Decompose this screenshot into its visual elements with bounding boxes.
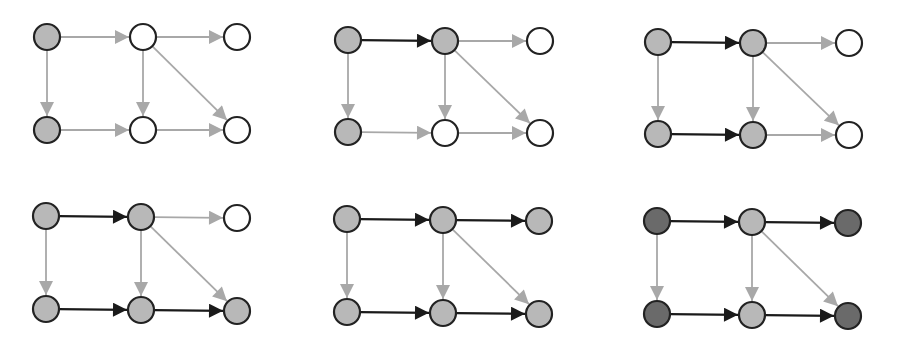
node-c-dark <box>835 210 861 236</box>
node-d-light <box>335 119 361 145</box>
edge-de-dark <box>670 314 738 315</box>
node-f-dark <box>835 303 861 329</box>
edge-de-dark <box>360 312 429 313</box>
node-d-light <box>645 121 671 147</box>
node-b-light <box>739 209 765 235</box>
node-f-white <box>527 120 553 146</box>
graph-panel-1 <box>34 24 250 143</box>
node-f-light <box>224 298 250 324</box>
node-b-white <box>130 24 156 50</box>
node-e-light <box>430 300 456 326</box>
node-e-light <box>740 122 766 148</box>
graph-panel-2 <box>335 27 553 146</box>
node-a-light <box>33 203 59 229</box>
node-a-light <box>334 206 360 232</box>
node-f-white <box>224 117 250 143</box>
node-c-white <box>836 30 862 56</box>
node-d-light <box>334 299 360 325</box>
edge-de-dark <box>671 134 739 135</box>
node-c-light <box>526 208 552 234</box>
node-a-light <box>335 27 361 53</box>
node-d-light <box>33 296 59 322</box>
edge-ab-dark <box>360 219 429 220</box>
edge-de-light <box>361 132 431 133</box>
node-a-dark <box>644 208 670 234</box>
node-e-white <box>130 117 156 143</box>
node-b-light <box>740 30 766 56</box>
edge-bc-light <box>154 217 223 218</box>
node-a-light <box>34 24 60 50</box>
edge-ab-dark <box>361 40 431 41</box>
panels-layer <box>33 24 862 329</box>
node-d-dark <box>644 301 670 327</box>
graph-panel-3 <box>645 29 862 148</box>
node-f-light <box>526 301 552 327</box>
edge-ab-dark <box>671 42 739 43</box>
edge-bf-light <box>762 52 839 125</box>
edge-ef-dark <box>456 313 525 314</box>
node-c-white <box>527 28 553 54</box>
graph-panel-6 <box>644 208 861 329</box>
edge-ef-dark <box>765 315 834 316</box>
node-f-white <box>836 122 862 148</box>
edge-bf-light <box>150 226 227 301</box>
diagram-canvas <box>0 0 898 346</box>
edge-bc-dark <box>765 222 834 223</box>
node-c-white <box>224 24 250 50</box>
graph-panel-5 <box>334 206 552 327</box>
node-a-light <box>645 29 671 55</box>
graph-panel-4 <box>33 203 250 324</box>
edge-de-dark <box>59 309 127 310</box>
edge-bf-light <box>454 50 530 123</box>
edge-bf-light <box>761 231 838 306</box>
edge-bc-dark <box>456 220 525 221</box>
node-b-light <box>432 28 458 54</box>
node-e-white <box>432 120 458 146</box>
node-c-white <box>224 205 250 231</box>
node-e-light <box>739 302 765 328</box>
edge-ab-dark <box>670 221 738 222</box>
edge-bf-light <box>152 46 227 120</box>
edge-bf-light <box>452 229 529 304</box>
node-b-light <box>430 207 456 233</box>
node-e-light <box>128 297 154 323</box>
edge-ef-dark <box>154 310 223 311</box>
node-b-light <box>128 204 154 230</box>
node-d-light <box>34 117 60 143</box>
edge-ab-dark <box>59 216 127 217</box>
